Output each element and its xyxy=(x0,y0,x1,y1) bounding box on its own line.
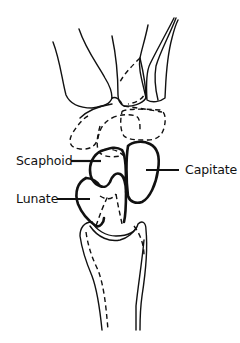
scaphoid-label: Scaphoid xyxy=(16,155,73,168)
forearm-bones xyxy=(80,222,147,330)
proximal-carpals xyxy=(76,142,158,227)
capitate-label: Capitate xyxy=(185,164,237,177)
lunate-label: Lunate xyxy=(16,193,58,206)
metacarpals xyxy=(53,18,178,108)
scaphoid-outline xyxy=(90,148,126,192)
capitate-outline xyxy=(127,142,159,203)
